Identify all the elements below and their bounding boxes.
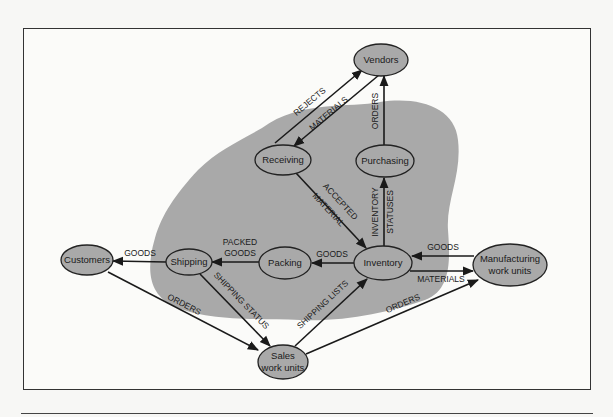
- edge-label-goods: GOODS: [427, 242, 459, 252]
- node-inventory: Inventory: [354, 246, 412, 280]
- node-label: work units: [488, 265, 532, 276]
- node-label: Purchasing: [361, 155, 409, 166]
- edge-label-materials: MATERIALS: [417, 274, 465, 284]
- edge-label-statuses: STATUSES: [385, 190, 395, 234]
- node-label: Vendors: [364, 54, 399, 65]
- edge-label-goods: GOODS: [124, 248, 156, 258]
- edge-label-packed-goods: GOODS: [224, 248, 256, 258]
- node-receiving: Receiving: [255, 145, 311, 175]
- data-flow-diagram: REJECTS MATERIALS ORDERS ACCEPTED MATERI…: [0, 0, 613, 417]
- node-vendors: Vendors: [354, 44, 408, 76]
- node-packing: Packing: [259, 247, 311, 279]
- node-label: Sales: [271, 350, 295, 361]
- node-label: Manufacturing: [480, 253, 540, 264]
- edge-label-orders: ORDERS: [370, 92, 380, 129]
- node-shipping: Shipping: [166, 249, 212, 275]
- node-manufacturing-work-units: Manufacturing work units: [473, 244, 547, 286]
- node-label: Inventory: [363, 257, 402, 268]
- node-label: Receiving: [262, 154, 304, 165]
- organization-region: [150, 101, 458, 321]
- node-sales-work-units: Sales work units: [258, 345, 308, 379]
- node-label: Shipping: [171, 256, 208, 267]
- node-label: Customers: [64, 254, 110, 265]
- node-label: work units: [261, 362, 305, 373]
- edge-label-goods: GOODS: [316, 249, 348, 259]
- edge-label-inventory: INVENTORY: [370, 187, 380, 237]
- node-customers: Customers: [61, 245, 113, 275]
- node-label: Packing: [268, 257, 302, 268]
- edge-label-packed: PACKED: [223, 237, 257, 247]
- node-purchasing: Purchasing: [356, 145, 414, 177]
